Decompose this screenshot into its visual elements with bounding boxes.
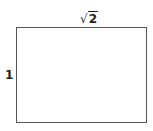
radicand: 2 bbox=[88, 11, 98, 26]
radical-sign: √ bbox=[80, 12, 88, 26]
height-label: 1 bbox=[5, 68, 13, 82]
width-label: √2 bbox=[78, 12, 100, 26]
rectangle bbox=[16, 27, 147, 123]
sqrt-two: √2 bbox=[80, 12, 98, 26]
